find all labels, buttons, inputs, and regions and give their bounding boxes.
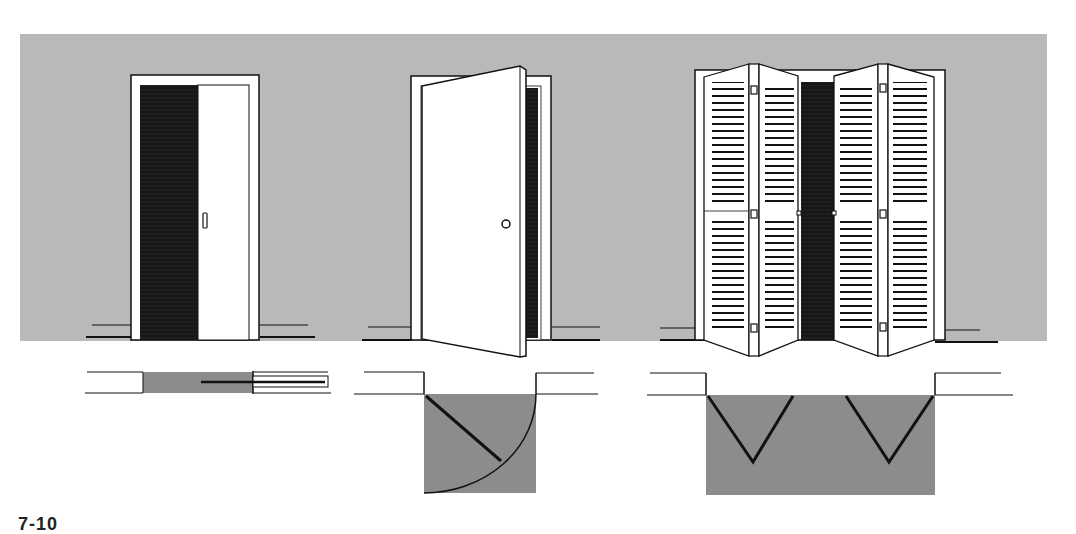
swing-door-leaf — [422, 66, 526, 357]
hinge-icon — [751, 324, 757, 332]
recessed-pull-icon — [203, 213, 207, 228]
open-doorway — [801, 82, 834, 340]
bifold-panel-left-inner — [749, 64, 801, 356]
open-doorway — [140, 85, 198, 340]
open-doorway — [526, 88, 538, 338]
bifold-door-plan — [647, 373, 1013, 495]
hinge-icon — [880, 323, 886, 331]
hinged-door-plan — [354, 372, 598, 493]
knob-icon — [797, 211, 801, 215]
bifold-panel-left-outer — [704, 64, 749, 356]
bifold-panel-right-outer — [878, 64, 934, 356]
figure-label: 7-10 — [18, 515, 58, 533]
doorknob-icon — [502, 220, 510, 228]
hinge-icon — [880, 84, 886, 92]
hinge-icon — [751, 86, 757, 94]
pocket-door-plan — [85, 371, 331, 394]
hinge-icon — [880, 210, 886, 218]
knob-icon — [832, 211, 836, 215]
hinge-icon — [751, 210, 757, 218]
bifold-panel-right-inner — [832, 64, 878, 356]
